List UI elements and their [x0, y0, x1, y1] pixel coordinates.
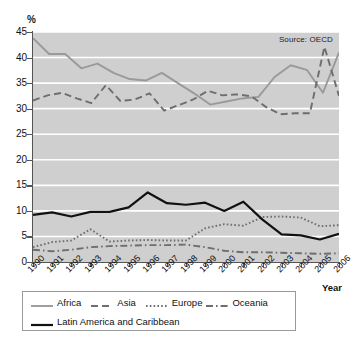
y-axis-tick-mark: [27, 236, 32, 237]
y-axis-tick-label: 20: [5, 155, 27, 165]
y-axis-unit-label: %: [27, 14, 36, 25]
y-axis-tick-mark: [27, 185, 32, 186]
y-axis-tick-label: 35: [5, 78, 27, 88]
legend-item-oceania[interactable]: Oceania: [206, 297, 267, 308]
legend-swatch-oceania: [206, 297, 228, 307]
y-axis: 051015202530354045: [0, 0, 27, 340]
chart-canvas: [33, 32, 339, 262]
legend-label-oceania: Oceania: [232, 297, 267, 308]
x-axis-tick-label: 1990: [26, 254, 47, 275]
legend-swatch-asia: [91, 297, 113, 307]
y-axis-tick-mark: [27, 211, 32, 212]
series-line-europe: [33, 217, 339, 248]
legend-item-africa[interactable]: Africa: [31, 297, 81, 308]
y-axis-tick-label: 40: [5, 53, 27, 63]
x-axis-title: Year: [322, 282, 342, 293]
legend-swatch-latin-america-and-caribbean: [31, 316, 53, 326]
y-axis-tick-label: 30: [5, 104, 27, 114]
y-axis-tick-mark: [27, 83, 32, 84]
legend-row-primary: Africa Asia Europe Oceania: [23, 292, 295, 312]
y-axis-tick-label: 5: [5, 231, 27, 241]
series-line-latin-america-and-caribbean: [33, 192, 339, 239]
y-axis-tick-label: 15: [5, 180, 27, 190]
series-line-oceania: [33, 245, 339, 254]
y-axis-tick-label: 25: [5, 129, 27, 139]
legend-label-europe: Europe: [172, 297, 203, 308]
legend-swatch-africa: [31, 297, 53, 307]
y-axis-tick-mark: [27, 262, 32, 263]
series-line-africa: [33, 38, 339, 104]
y-axis-tick-mark: [27, 58, 32, 59]
y-axis-tick-mark: [27, 134, 32, 135]
legend-label-asia: Asia: [117, 297, 135, 308]
y-axis-tick-label: 10: [5, 206, 27, 216]
y-axis-tick-mark: [27, 160, 32, 161]
legend-label-latin-america-and-caribbean: Latin America and Caribbean: [57, 316, 180, 327]
legend-item-asia[interactable]: Asia: [91, 297, 135, 308]
legend-label-africa: Africa: [57, 297, 81, 308]
y-axis-tick-label: 45: [5, 27, 27, 37]
source-annotation: Source: OECD: [279, 35, 333, 44]
legend-item-europe[interactable]: Europe: [146, 297, 203, 308]
legend: Africa Asia Europe Oceania Latin America…: [22, 291, 296, 331]
legend-item-latin-america-and-caribbean[interactable]: Latin America and Caribbean: [31, 316, 180, 327]
legend-row-secondary: Latin America and Caribbean: [23, 311, 295, 331]
legend-swatch-europe: [146, 297, 168, 307]
y-axis-tick-label: 0: [5, 257, 27, 267]
y-axis-tick-mark: [27, 32, 32, 33]
y-axis-tick-mark: [27, 109, 32, 110]
plot-area: Source: OECD: [33, 32, 339, 262]
